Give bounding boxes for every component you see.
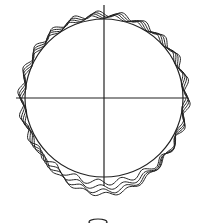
roundness-profile-diagram [0, 0, 197, 223]
bottom-mark [89, 219, 107, 223]
diagram-canvas [0, 0, 197, 223]
